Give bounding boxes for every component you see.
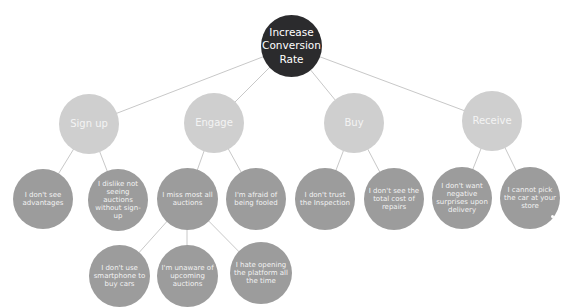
leaf-label: I dislike not seeing auctions without si… [92, 180, 144, 220]
root-label: Increase Conversion Rate [262, 26, 321, 67]
subleaf-label: I don't use smartphone to buy cars [93, 264, 146, 288]
category-label: Receive [472, 115, 511, 127]
subleaf-node: I'm unaware of upcoming auctions [157, 245, 218, 307]
leaf-node: I don't trust the Inspection [295, 168, 355, 230]
category-label: Buy [344, 117, 363, 129]
root-node: Increase Conversion Rate [261, 15, 322, 77]
leaf-label: I cannot pick the car at your store [504, 186, 556, 210]
subleaf-node: I don't use smartphone to buy cars [89, 245, 150, 307]
subleaf-node: I hate opening the platform all the time [230, 242, 292, 304]
leaf-node: I don't want negative surprises upon del… [432, 167, 492, 229]
category-node-sign-up: Sign up [59, 94, 119, 154]
subleaf-label: I hate opening the platform all the time [234, 261, 288, 285]
leaf-label: I don't want negative surprises upon del… [436, 182, 488, 214]
category-label: Sign up [70, 118, 108, 130]
subleaf-label: I'm unaware of upcoming auctions [161, 264, 214, 288]
category-label: Engage [195, 117, 233, 129]
leaf-label: I don't trust the Inspection [299, 191, 351, 207]
leaf-node: I don't see the total cost of repairs [364, 168, 424, 230]
leaf-node: I'm afraid of being fooled [226, 168, 286, 230]
leaf-node: I dislike not seeing auctions without si… [88, 169, 148, 231]
category-node-buy: Buy [324, 93, 384, 153]
leaf-label: I don't see the total cost of repairs [368, 187, 420, 211]
leaf-label: I'm afraid of being fooled [230, 191, 282, 207]
leaf-label: I don't see advantages [17, 191, 69, 207]
leaf-label: I miss most all auctions [161, 191, 214, 207]
leaf-node: I cannot pick the car at your store [500, 167, 560, 229]
leaf-node: I don't see advantages [13, 169, 73, 229]
white-dot-marker [551, 215, 554, 218]
leaf-node: I miss most all auctions [157, 168, 218, 230]
category-node-receive: Receive [462, 91, 522, 151]
category-node-engage: Engage [184, 93, 244, 153]
